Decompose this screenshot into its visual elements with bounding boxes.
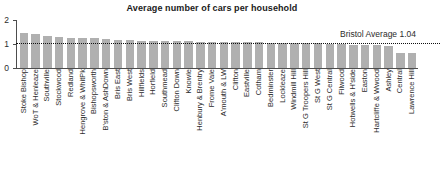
x-tick-label: St G West — [314, 69, 322, 103]
bar[interactable] — [278, 43, 286, 68]
average-reference-label: Bristol Average 1.04 — [340, 29, 416, 39]
bar[interactable] — [290, 43, 298, 68]
y-tick-label: 0 — [0, 63, 9, 73]
x-label-slot: Hotwells & H'side — [347, 69, 359, 175]
bar[interactable] — [349, 45, 357, 68]
x-label-slot: Hengrove & WhitPk — [77, 69, 89, 175]
x-tick-label: Henbury & Brentry — [197, 69, 205, 131]
x-label-slot: B'ston & AshDown — [100, 69, 112, 175]
x-tick-label: Easton — [361, 69, 369, 92]
x-tick-label: Bris West — [126, 69, 134, 101]
bar[interactable] — [314, 43, 322, 68]
bar[interactable] — [243, 42, 251, 68]
bar[interactable] — [361, 45, 369, 68]
bar[interactable] — [337, 44, 345, 68]
bar[interactable] — [396, 53, 404, 68]
x-label-slot: Cotham — [253, 69, 265, 175]
x-label-slot: Eastville — [242, 69, 254, 175]
x-tick-label: Clifton Down — [173, 69, 181, 112]
x-tick-label: A'mouth & LW — [220, 69, 228, 116]
bar[interactable] — [231, 42, 239, 68]
bar[interactable] — [184, 41, 192, 68]
x-label-slot: Henbury & Brentry — [194, 69, 206, 175]
bar[interactable] — [55, 37, 63, 68]
x-tick-label: Bishopsworth — [91, 69, 99, 114]
x-label-slot: WoT & Henleaze — [30, 69, 42, 175]
x-label-slot: Southmead — [159, 69, 171, 175]
y-tick-mark — [13, 44, 17, 45]
x-label-slot: Easton — [359, 69, 371, 175]
bar[interactable] — [173, 41, 181, 68]
x-label-slot: A'mouth & LW — [218, 69, 230, 175]
x-tick-label: Southmead — [161, 69, 169, 107]
bar[interactable] — [20, 33, 28, 68]
x-label-slot: Ashley — [383, 69, 395, 175]
x-tick-label: Ashley — [385, 69, 393, 92]
x-tick-label: Frome Vale — [208, 69, 216, 107]
bar[interactable] — [43, 36, 51, 68]
bar[interactable] — [31, 34, 39, 68]
x-tick-label: Cotham — [255, 69, 263, 95]
bar[interactable] — [267, 43, 275, 68]
bar[interactable] — [302, 43, 310, 68]
bar[interactable] — [326, 44, 334, 68]
x-label-slot: Bedminster — [265, 69, 277, 175]
x-tick-label: St G Central — [326, 69, 334, 110]
x-tick-label: Bedminster — [267, 69, 275, 107]
bar[interactable] — [208, 42, 216, 68]
x-label-slot: Clifton Down — [171, 69, 183, 175]
x-tick-label: Lawrence Hill — [408, 69, 416, 114]
bar[interactable] — [255, 42, 263, 68]
x-tick-label: Hillfields — [138, 69, 146, 97]
bar[interactable] — [384, 46, 392, 68]
x-label-slot: Hartcliffe & Wwood — [371, 69, 383, 175]
x-label-slot: St G Troopers Hill — [300, 69, 312, 175]
x-tick-label: Windmill Hill — [291, 69, 299, 110]
x-label-slot: Lawrence Hill — [406, 69, 418, 175]
x-tick-label: B'ston & AshDown — [102, 69, 110, 130]
x-label-slot: Knowle — [183, 69, 195, 175]
y-tick-label: 2 — [0, 15, 9, 25]
x-label-slot: Lockleaze — [277, 69, 289, 175]
x-tick-label: Stoke Bishop — [20, 69, 28, 113]
x-label-slot: Redland — [65, 69, 77, 175]
bar[interactable] — [196, 42, 204, 68]
x-label-slot: Southville — [42, 69, 54, 175]
x-tick-label: Clifton — [232, 69, 240, 90]
bar[interactable] — [161, 41, 169, 68]
x-label-slot: St G Central — [324, 69, 336, 175]
x-tick-label: Knowle — [185, 69, 193, 94]
x-tick-label: Southville — [44, 69, 52, 102]
x-tick-label: Horfield — [150, 69, 158, 95]
x-label-slot: Clifton — [230, 69, 242, 175]
x-tick-label: Redland — [67, 69, 75, 97]
y-tick-mark — [13, 68, 17, 69]
x-label-slot: Stoke Bishop — [18, 69, 30, 175]
bar[interactable] — [373, 45, 381, 68]
x-tick-label: Hartcliffe & Wwood — [373, 69, 381, 133]
x-tick-label: Hotwells & H'side — [350, 69, 358, 127]
x-tick-label: Filwood — [338, 69, 346, 95]
page-title: Average number of cars per household — [0, 3, 424, 13]
x-tick-label: Stockwood — [55, 69, 63, 106]
x-label-slot: Filwood — [336, 69, 348, 175]
y-tick-label: 1 — [0, 39, 9, 49]
x-label-slot: St G West — [312, 69, 324, 175]
bar[interactable] — [408, 53, 416, 68]
x-label-slot: Bishopsworth — [89, 69, 101, 175]
x-tick-label: Central — [397, 69, 405, 93]
x-label-slot: Stockwood — [53, 69, 65, 175]
x-label-slot: Frome Vale — [206, 69, 218, 175]
x-label-slot: Bris East — [112, 69, 124, 175]
plot-area: 012 Bristol Average 1.04 — [18, 20, 418, 68]
x-label-slot: Horfield — [147, 69, 159, 175]
bar[interactable] — [220, 42, 228, 68]
bar[interactable] — [149, 41, 157, 68]
bar[interactable] — [137, 41, 145, 68]
x-label-slot: Windmill Hill — [289, 69, 301, 175]
x-label-slot: Bris West — [124, 69, 136, 175]
y-tick-mark — [13, 20, 17, 21]
x-axis-labels: Stoke BishopWoT & HenleazeSouthvilleStoc… — [18, 69, 418, 175]
bar[interactable] — [126, 40, 134, 68]
